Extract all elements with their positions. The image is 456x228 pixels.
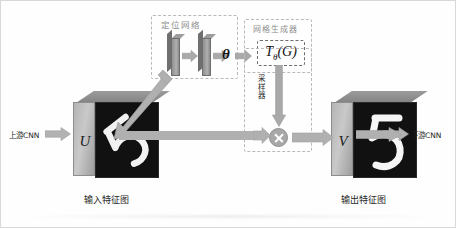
sampler-label: 采 样 器 [257, 75, 266, 101]
input-feature-map-caption: 输入特征图 [84, 193, 129, 206]
localisation-layer-2 [198, 34, 214, 78]
upstream-cnn-arrow-icon [45, 127, 71, 141]
feature-to-localisation-arrow [111, 61, 173, 141]
sampling-multiply-node [269, 128, 288, 147]
localisation-arrow-1 [182, 50, 198, 62]
sampler-to-output-arrow [292, 129, 334, 146]
sampler-vertical-arrow [272, 65, 286, 127]
grid-generator-label: 网格生成器 [253, 23, 298, 34]
sampler-label-char: 器 [257, 92, 266, 101]
theta-symbol: θ [222, 46, 230, 63]
upstream-cnn-label: 上游CNN [9, 129, 39, 140]
output-feature-map-letter: V [333, 133, 353, 150]
input-to-sampler-line [119, 131, 261, 140]
downstream-cnn-label: 下游CNN [411, 129, 441, 140]
input-feature-map-letter: U [75, 133, 95, 150]
figure-shadow [21, 215, 437, 218]
output-feature-map-caption: 输出特征图 [341, 193, 386, 206]
input-to-sampler-arrowhead [253, 127, 271, 144]
output-to-downstream-arrow [356, 127, 402, 142]
spatial-transformer-diagram: 定位网络 θ 网格生成器 Tθ(G) [0, 0, 456, 228]
localisation-network-label: 定位网络 [161, 18, 201, 30]
slab-front [202, 38, 211, 76]
